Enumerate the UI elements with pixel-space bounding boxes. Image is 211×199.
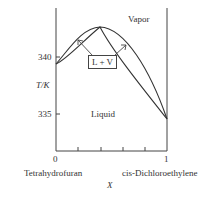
left-component-label: Tetrahydrofuran <box>24 168 82 178</box>
y-ticks <box>56 57 60 114</box>
x-axis-label: X <box>107 180 113 190</box>
x-tick-label-1: 1 <box>164 154 169 164</box>
x-tick-label-0: 0 <box>53 154 58 164</box>
lv-region-label: L + V <box>88 55 117 69</box>
y-tick-label-340: 340 <box>38 52 52 62</box>
y-tick-label-335: 335 <box>38 109 52 119</box>
liquid-curve <box>56 27 167 119</box>
y-axis-label: T/K <box>36 80 50 90</box>
vapor-curve <box>56 27 167 119</box>
lv-arrows <box>78 40 126 55</box>
right-component-label: cis-Dichloroethylene <box>122 168 197 178</box>
vapor-region-label: Vapor <box>128 14 150 24</box>
liquid-region-label: Liquid <box>91 109 115 119</box>
x-ticks <box>78 147 145 151</box>
